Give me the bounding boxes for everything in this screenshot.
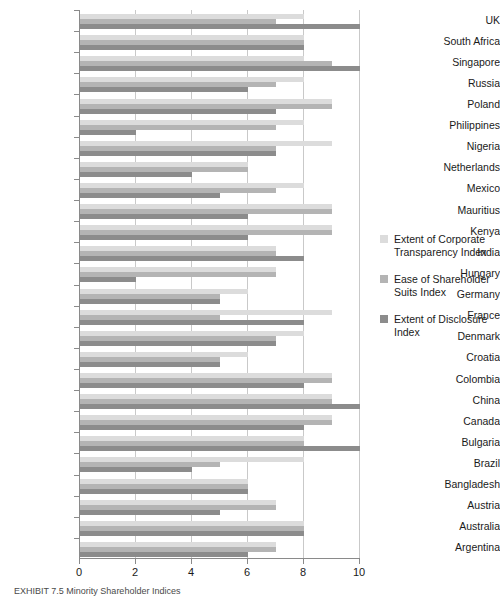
y-axis-label-netherlands: Netherlands [426, 162, 500, 173]
bar-philippines-series-3 [80, 130, 136, 135]
x-tick-0 [79, 559, 80, 564]
x-tick-label-8: 8 [283, 566, 323, 578]
x-axis-line [79, 558, 360, 559]
y-axis-label-south-africa: South Africa [426, 36, 500, 47]
chart-legend: Extent of CorporateTransparency IndexEas… [380, 233, 498, 353]
y-axis-label-china: China [426, 395, 500, 406]
y-tick-17 [74, 369, 79, 370]
bar-uk-series-3 [80, 24, 360, 29]
y-axis-label-austria: Austria [426, 500, 500, 511]
y-tick-10 [74, 221, 79, 222]
y-axis-label-bangladesh: Bangladesh [426, 479, 500, 490]
y-axis-label-colombia: Colombia [426, 374, 500, 385]
gridline-10 [359, 10, 360, 559]
legend-entry-3[interactable]: Extent of DisclosureIndex [380, 313, 498, 339]
y-tick-12 [74, 263, 79, 264]
y-axis-label-singapore: Singapore [426, 57, 500, 68]
y-tick-8 [74, 179, 79, 180]
minority-shareholder-indices-chart: UKSouth AfricaSingaporeRussiaPolandPhili… [0, 0, 500, 597]
y-tick-24 [74, 517, 79, 518]
x-tick-8 [303, 559, 304, 564]
y-tick-15 [74, 327, 79, 328]
bar-colombia-series-3 [80, 383, 304, 388]
bar-bulgaria-series-3 [80, 446, 360, 451]
y-axis-label-mauritius: Mauritius [426, 205, 500, 216]
y-axis-label-uk: UK [426, 15, 500, 26]
bar-singapore-series-3 [80, 66, 360, 71]
y-axis-label-russia: Russia [426, 78, 500, 89]
y-tick-4 [74, 94, 79, 95]
bar-india-series-3 [80, 256, 304, 261]
y-tick-11 [74, 242, 79, 243]
x-tick-label-0: 0 [59, 566, 99, 578]
y-tick-23 [74, 496, 79, 497]
x-tick-label-2: 2 [115, 566, 155, 578]
legend-swatch-icon-1 [380, 235, 388, 243]
y-axis-label-poland: Poland [426, 99, 500, 110]
figure-caption: EXHIBIT 7.5 Minority Shareholder Indices [14, 586, 180, 597]
y-tick-7 [74, 158, 79, 159]
bar-croatia-series-3 [80, 362, 220, 367]
x-tick-label-10: 10 [339, 566, 379, 578]
y-tick-22 [74, 475, 79, 476]
y-axis-label-brazil: Brazil [426, 458, 500, 469]
legend-entry-2[interactable]: Ease of ShareholderSuits Index [380, 273, 498, 299]
y-tick-2 [74, 52, 79, 53]
y-axis-label-nigeria: Nigeria [426, 141, 500, 152]
x-tick-label-4: 4 [171, 566, 211, 578]
y-axis-label-australia: Australia [426, 521, 500, 532]
y-tick-0 [74, 10, 79, 11]
y-tick-16 [74, 348, 79, 349]
bar-nigeria-series-3 [80, 151, 276, 156]
bar-bangladesh-series-3 [80, 489, 248, 494]
y-axis-label-bulgaria: Bulgaria [426, 437, 500, 448]
y-tick-3 [74, 73, 79, 74]
bar-germany-series-3 [80, 299, 220, 304]
legend-label-3: Extent of DisclosureIndex [394, 313, 487, 338]
bar-mauritius-series-3 [80, 214, 248, 219]
y-tick-13 [74, 285, 79, 286]
bar-mexico-series-3 [80, 193, 220, 198]
bar-argentina-series-3 [80, 552, 248, 557]
x-tick-10 [359, 559, 360, 564]
bar-denmark-series-3 [80, 341, 276, 346]
y-tick-21 [74, 453, 79, 454]
y-tick-25 [74, 538, 79, 539]
x-tick-6 [247, 559, 248, 564]
x-tick-2 [135, 559, 136, 564]
legend-label-2: Ease of ShareholderSuits Index [394, 273, 490, 298]
bar-france-series-3 [80, 320, 304, 325]
bar-australia-series-3 [80, 531, 304, 536]
y-tick-1 [74, 31, 79, 32]
bar-netherlands-series-3 [80, 172, 192, 177]
bar-china-series-3 [80, 404, 360, 409]
bar-kenya-series-3 [80, 235, 248, 240]
y-tick-9 [74, 200, 79, 201]
bar-russia-series-3 [80, 87, 248, 92]
y-tick-5 [74, 116, 79, 117]
y-tick-19 [74, 411, 79, 412]
x-tick-label-6: 6 [227, 566, 267, 578]
y-axis-label-croatia: Croatia [426, 352, 500, 363]
x-tick-4 [191, 559, 192, 564]
legend-swatch-icon-3 [380, 315, 388, 323]
y-tick-18 [74, 390, 79, 391]
y-tick-14 [74, 306, 79, 307]
y-tick-20 [74, 432, 79, 433]
bar-hungary-series-3 [80, 277, 136, 282]
legend-entry-1[interactable]: Extent of CorporateTransparency Index [380, 233, 498, 259]
y-tick-6 [74, 137, 79, 138]
bar-canada-series-3 [80, 425, 304, 430]
bar-south-africa-series-3 [80, 45, 304, 50]
bar-brazil-series-3 [80, 467, 192, 472]
legend-label-1: Extent of CorporateTransparency Index [394, 233, 486, 258]
y-axis-label-argentina: Argentina [426, 542, 500, 553]
legend-swatch-icon-2 [380, 275, 388, 283]
gridline-8 [303, 10, 304, 559]
y-axis-label-canada: Canada [426, 416, 500, 427]
y-axis-label-mexico: Mexico [426, 183, 500, 194]
y-axis-label-philippines: Philippines [426, 120, 500, 131]
bar-poland-series-3 [80, 109, 276, 114]
bar-austria-series-3 [80, 510, 220, 515]
